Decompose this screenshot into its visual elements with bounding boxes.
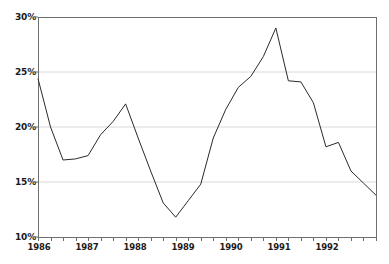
gridlines: [38, 72, 376, 182]
plot-area: [0, 0, 389, 264]
y-tick-marks: [34, 17, 38, 237]
line-chart: 30% 25% 20% 15% 10% 1986 1987 1988 1989 …: [0, 0, 389, 264]
data-series-line: [38, 28, 376, 217]
